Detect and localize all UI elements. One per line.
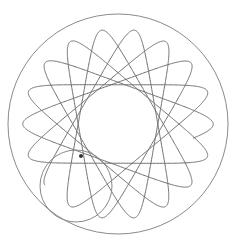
pen-dot-icon[interactable] (79, 154, 83, 158)
rolling-gear-circle (40, 150, 112, 222)
spirograph-drawing (0, 0, 240, 248)
hypotrochoid-curve (23, 30, 213, 218)
spirograph-canvas (0, 0, 240, 248)
